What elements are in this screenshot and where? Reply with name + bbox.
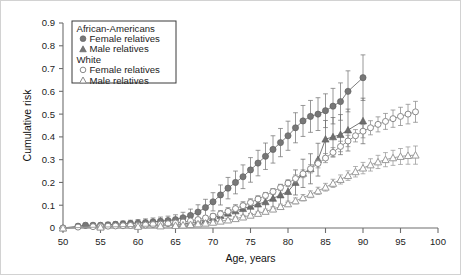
- data-point-hollow-circle: [345, 138, 351, 144]
- hollow-circle-icon: [80, 67, 86, 73]
- data-point-hollow-circle: [113, 223, 119, 229]
- data-point-hollow-circle: [90, 224, 96, 230]
- data-point-filled-circle: [345, 88, 351, 94]
- x-tick-label: 60: [133, 236, 144, 247]
- data-point-hollow-circle: [225, 208, 231, 214]
- x-tick-label: 55: [95, 236, 106, 247]
- data-point-hollow-circle: [398, 113, 404, 119]
- data-point-hollow-circle: [375, 121, 381, 127]
- data-point-hollow-circle: [293, 176, 299, 182]
- data-point-hollow-triangle: [277, 203, 284, 210]
- data-point-hollow-circle: [368, 125, 374, 131]
- data-point-filled-circle: [225, 185, 231, 191]
- data-point-hollow-circle: [315, 161, 321, 167]
- data-point-filled-circle: [337, 98, 343, 104]
- data-point-hollow-circle: [278, 184, 284, 190]
- y-tick-label: 0.9: [42, 17, 55, 28]
- legend: African-AmericansFemale relativesMale re…: [72, 21, 176, 86]
- data-point-hollow-circle: [300, 171, 306, 177]
- chart-figure: 00.10.20.30.40.50.60.70.80.9505560657075…: [0, 0, 461, 275]
- x-axis-title: Age, years: [225, 252, 275, 264]
- data-point-hollow-circle: [338, 143, 344, 149]
- data-point-filled-circle: [232, 179, 238, 185]
- data-point-filled-circle: [292, 125, 298, 131]
- data-point-hollow-circle: [150, 222, 156, 228]
- data-point-hollow-circle: [75, 224, 81, 230]
- data-point-hollow-circle: [353, 133, 359, 139]
- y-tick-label: 0.1: [42, 200, 55, 211]
- data-point-hollow-triangle: [307, 191, 314, 198]
- data-point-hollow-triangle: [367, 161, 374, 168]
- data-point-filled-circle: [255, 160, 261, 166]
- legend-group-header: White: [77, 54, 102, 65]
- data-point-hollow-circle: [330, 149, 336, 155]
- series-4: [59, 146, 419, 231]
- data-point-hollow-circle: [240, 203, 246, 209]
- data-point-filled-circle: [195, 209, 201, 215]
- y-tick-label: 0: [50, 222, 55, 233]
- chart-svg: 00.10.20.30.40.50.60.70.80.9505560657075…: [1, 1, 461, 275]
- data-point-filled-circle: [300, 118, 306, 124]
- data-point-filled-circle: [262, 153, 268, 159]
- data-point-hollow-circle: [143, 222, 149, 228]
- data-point-hollow-circle: [218, 211, 224, 217]
- data-point-filled-triangle: [262, 198, 269, 205]
- data-point-hollow-circle: [105, 223, 111, 229]
- data-point-hollow-triangle: [412, 152, 419, 159]
- x-tick-label: 65: [170, 236, 181, 247]
- data-point-filled-circle: [270, 146, 276, 152]
- x-tick-label: 75: [245, 236, 256, 247]
- data-point-hollow-triangle: [322, 184, 329, 191]
- data-point-hollow-triangle: [344, 172, 351, 179]
- y-tick-label: 0.5: [42, 109, 55, 120]
- data-point-hollow-triangle: [314, 187, 321, 194]
- legend-entry-label: Male relatives: [90, 75, 149, 86]
- x-tick-label: 95: [395, 236, 406, 247]
- data-point-filled-circle: [202, 204, 208, 210]
- data-point-hollow-circle: [120, 223, 126, 229]
- data-point-filled-circle: [360, 75, 366, 81]
- data-point-hollow-circle: [285, 180, 291, 186]
- data-point-filled-triangle: [337, 131, 344, 138]
- data-point-hollow-triangle: [352, 168, 359, 175]
- legend-entry-label: Female relatives: [90, 33, 161, 44]
- data-point-hollow-triangle: [284, 200, 291, 207]
- y-tick-label: 0.8: [42, 40, 55, 51]
- legend-group-header: African-Americans: [77, 23, 156, 34]
- y-tick-label: 0.2: [42, 177, 55, 188]
- data-point-filled-triangle: [344, 126, 351, 133]
- data-point-hollow-circle: [308, 166, 314, 172]
- data-point-filled-circle: [285, 133, 291, 139]
- legend-entry-label: Female relatives: [90, 64, 161, 75]
- data-point-filled-triangle: [359, 117, 366, 124]
- data-point-hollow-circle: [270, 189, 276, 195]
- y-tick-label: 0.3: [42, 154, 55, 165]
- data-point-hollow-circle: [390, 116, 396, 122]
- data-point-hollow-triangle: [292, 197, 299, 204]
- data-point-hollow-circle: [405, 111, 411, 117]
- data-point-hollow-circle: [413, 109, 419, 115]
- data-point-hollow-triangle: [359, 164, 366, 171]
- data-point-hollow-circle: [255, 196, 261, 202]
- data-point-filled-circle: [247, 167, 253, 173]
- data-point-hollow-circle: [263, 192, 269, 198]
- plot-area: 00.10.20.30.40.50.60.70.80.9505560657075…: [1, 1, 461, 275]
- data-point-filled-circle: [217, 192, 223, 198]
- legend-entry-label: Male relatives: [90, 43, 149, 54]
- data-point-hollow-triangle: [269, 205, 276, 212]
- data-point-filled-triangle: [277, 191, 284, 198]
- data-point-hollow-circle: [360, 128, 366, 134]
- x-tick-label: 70: [208, 236, 219, 247]
- data-point-filled-circle: [330, 103, 336, 109]
- x-tick-label: 50: [58, 236, 69, 247]
- data-point-filled-circle: [315, 111, 321, 117]
- filled-circle-icon: [80, 36, 86, 42]
- data-point-filled-triangle: [269, 195, 276, 202]
- y-axis-title: Cumulative risk: [21, 89, 33, 162]
- data-point-hollow-circle: [383, 118, 389, 124]
- x-tick-label: 80: [283, 236, 294, 247]
- data-point-hollow-circle: [323, 155, 329, 161]
- data-point-filled-circle: [240, 174, 246, 180]
- x-tick-label: 85: [320, 236, 331, 247]
- data-point-hollow-triangle: [299, 194, 306, 201]
